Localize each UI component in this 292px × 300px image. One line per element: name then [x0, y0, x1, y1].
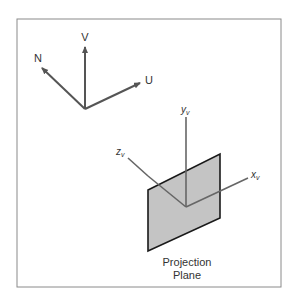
- projection-plane-caption-line1: Projection: [163, 256, 212, 268]
- v-axis-label: V: [81, 31, 89, 43]
- n-axis-label: N: [34, 52, 42, 64]
- diagram-canvas: V U N yv xv zv Projection Plane: [0, 0, 292, 300]
- projection-plane-caption-line2: Plane: [173, 269, 201, 281]
- u-axis-label: U: [145, 74, 153, 86]
